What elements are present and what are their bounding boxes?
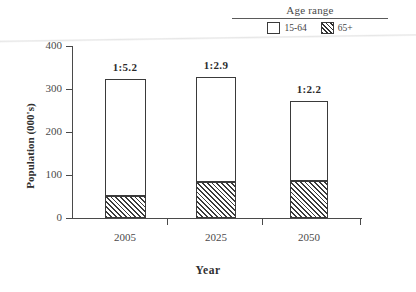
- bar-label-2005: 1:5.2: [85, 61, 165, 73]
- bar-2005-segment-15-64: [105, 79, 146, 196]
- bar-2050-segment-65-plus: [290, 181, 328, 218]
- bar-2025-segment-15-64: [196, 77, 236, 182]
- x-axis-line: [72, 218, 362, 219]
- bar-2025-segment-65-plus: [196, 182, 236, 218]
- x-axis-label-2005: 2005: [95, 231, 155, 243]
- bar-2050: [290, 101, 328, 218]
- y-tick-100: [66, 175, 73, 176]
- x-axis-label-2050: 2050: [279, 231, 339, 243]
- x-tick-1: [167, 218, 168, 225]
- x-tick-3: [360, 218, 361, 225]
- bar-2005: [105, 79, 146, 218]
- bar-2025: [196, 77, 236, 218]
- y-tick-400: [66, 46, 73, 47]
- y-tick-label-400: 400: [22, 39, 62, 51]
- y-tick-200: [66, 132, 73, 133]
- y-axis-title: Population (000's): [24, 76, 36, 216]
- x-tick-2: [262, 218, 263, 225]
- x-axis-title: Year: [0, 264, 416, 276]
- plot-area: 400 300 200 100 0 1:5.2 2005 1:2.9 2025: [0, 0, 416, 292]
- x-axis-label-2025: 2025: [186, 231, 246, 243]
- y-tick-300: [66, 89, 73, 90]
- chart-figure: Age range 15-64 65+ 400 300 200 100: [0, 0, 416, 292]
- bar-label-2050: 1:2.2: [269, 83, 349, 95]
- bar-2050-segment-15-64: [290, 101, 328, 181]
- y-tick-0: [66, 218, 73, 219]
- bar-2005-segment-65-plus: [105, 196, 146, 218]
- bar-label-2025: 1:2.9: [176, 59, 256, 71]
